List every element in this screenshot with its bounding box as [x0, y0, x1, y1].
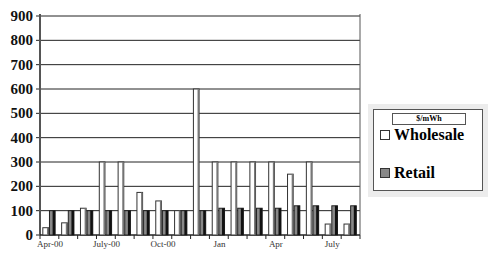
bar-wholesale-shade	[85, 208, 87, 235]
bar-wholesale-shade	[311, 162, 313, 235]
y-tick-label: 500	[11, 105, 34, 121]
bar-retail-shade	[53, 211, 56, 235]
bar-retail-shade	[203, 211, 206, 235]
legend-label-wholesale: Wholesale	[394, 126, 464, 144]
retail-swatch-icon	[380, 168, 390, 178]
bar-wholesale-shade	[348, 224, 350, 235]
wholesale-swatch-icon	[380, 130, 390, 140]
bar-wholesale-shade	[292, 174, 294, 235]
bar-retail-shade	[222, 208, 225, 235]
x-tick-label: July	[325, 239, 341, 249]
bar-retail-shade	[166, 211, 169, 235]
bar-wholesale-shade	[216, 162, 218, 235]
y-tick-label: 900	[11, 8, 34, 24]
bar-retail-shade	[90, 211, 93, 235]
bar-wholesale-shade	[198, 89, 200, 235]
y-tick-label: 0	[26, 227, 34, 243]
bar-retail-shade	[184, 211, 187, 235]
bar-wholesale-shade	[254, 162, 256, 235]
y-tick-label: 200	[11, 178, 34, 194]
bar-wholesale-shade	[103, 162, 105, 235]
bar-retail-shade	[109, 211, 112, 235]
bar-wholesale-shade	[235, 162, 237, 235]
bar-wholesale-shade	[66, 223, 68, 235]
x-tick-label: Jan	[213, 239, 225, 249]
bar-retail-shade	[241, 208, 244, 235]
bar-wholesale-shade	[141, 192, 143, 235]
x-tick-label: July-00	[93, 239, 121, 249]
bar-wholesale-shade	[329, 224, 331, 235]
bar-retail-shade	[71, 211, 74, 235]
y-tick-label: 400	[11, 130, 34, 146]
bar-retail-shade	[316, 206, 319, 235]
bar-retail-shade	[279, 208, 282, 235]
y-tick-label: 700	[11, 57, 34, 73]
bar-retail-shade	[354, 206, 357, 235]
bar-wholesale-shade	[273, 162, 275, 235]
legend: $/mWh Wholesale Retail	[373, 109, 483, 191]
x-tick-label: Apr-00	[37, 239, 63, 249]
bar-retail-shade	[297, 206, 300, 235]
legend-title: $/mWh	[392, 113, 466, 125]
x-tick-label: Oct-00	[150, 239, 175, 249]
bar-wholesale-shade	[160, 201, 162, 235]
bar-wholesale-shade	[179, 211, 181, 235]
legend-item-wholesale: Wholesale	[380, 126, 464, 144]
bar-retail-shade	[128, 211, 131, 235]
bar-retail-shade	[147, 211, 150, 235]
legend-item-retail: Retail	[380, 164, 435, 182]
y-tick-label: 100	[11, 203, 34, 219]
y-tick-label: 600	[11, 81, 34, 97]
bar-wholesale-shade	[122, 162, 124, 235]
x-tick-label: Apr	[269, 239, 283, 249]
y-tick-label: 800	[11, 32, 34, 48]
bar-retail-shade	[335, 206, 338, 235]
legend-label-retail: Retail	[394, 164, 435, 182]
bar-retail-shade	[260, 208, 263, 235]
y-tick-label: 300	[11, 154, 34, 170]
bar-wholesale-shade	[47, 228, 49, 235]
